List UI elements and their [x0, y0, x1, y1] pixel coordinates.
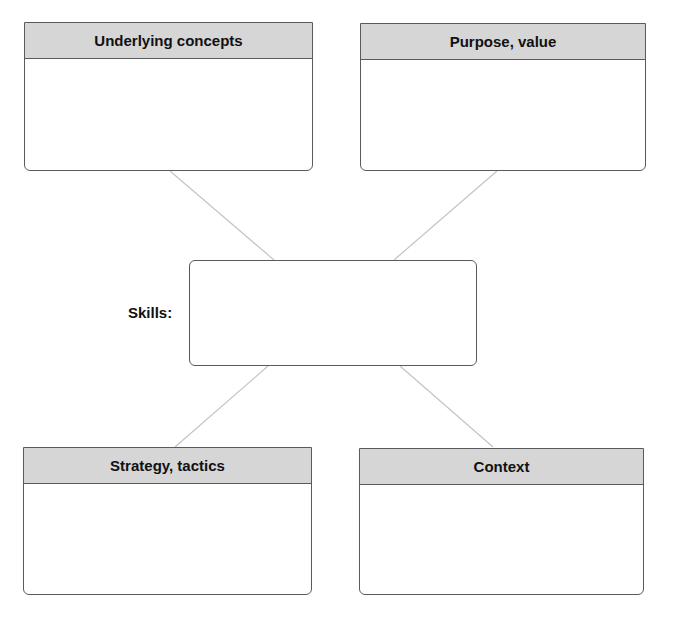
box-header: Strategy, tactics [24, 448, 311, 484]
box-underlying-concepts: Underlying concepts [24, 22, 313, 171]
box-header: Purpose, value [361, 24, 645, 60]
connector-purpose-value [394, 171, 497, 260]
connector-strategy-tactics [175, 366, 268, 447]
box-header: Context [360, 449, 643, 485]
box-body[interactable] [24, 484, 311, 594]
box-body[interactable] [25, 59, 312, 170]
box-body[interactable] [361, 60, 645, 170]
connector-underlying-concepts [170, 171, 274, 260]
connector-context [400, 366, 493, 447]
skills-box[interactable] [189, 260, 477, 366]
box-body[interactable] [360, 485, 643, 594]
box-strategy-tactics: Strategy, tactics [23, 447, 312, 595]
box-header: Underlying concepts [25, 23, 312, 59]
box-purpose-value: Purpose, value [360, 23, 646, 171]
skills-label: Skills: [128, 304, 172, 321]
box-context: Context [359, 448, 644, 595]
